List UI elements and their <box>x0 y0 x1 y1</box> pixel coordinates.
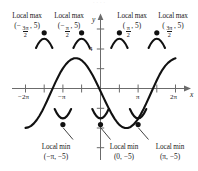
coord-rest: , 5) <box>174 21 184 30</box>
y-tick-label-4: 4 <box>89 45 93 53</box>
minus-sign: − <box>60 21 64 30</box>
local-min-marker-1 <box>60 122 65 127</box>
local-max-caption-2: Local max <box>44 13 94 21</box>
local-min-coord-3: (π, −5) <box>146 153 194 161</box>
local-max-coord-4: (3π2, 5) <box>148 22 198 39</box>
local-min-marker-3 <box>136 122 141 127</box>
local-min-caption-3: Local min <box>146 144 194 152</box>
local-min-coord-1: (−π, −5) <box>26 153 86 161</box>
fraction-denominator: 2 <box>126 31 131 38</box>
local-min-label-2: Local min (0, −5) <box>101 144 147 160</box>
fraction-denominator: 2 <box>23 31 28 38</box>
leader-line-min-1 <box>63 128 73 140</box>
x-tick-label-neg-pi: −π <box>58 93 65 101</box>
coord-rest: , 5) <box>70 21 80 30</box>
x-axis <box>12 86 191 92</box>
local-min-coord-2: (0, −5) <box>101 153 147 161</box>
local-max-label-2: Local max (−π2, 5) <box>44 13 94 38</box>
leader-lines <box>63 128 149 140</box>
x-axis-name: x <box>190 90 193 99</box>
local-min-label-3: Local min (π, −5) <box>146 144 194 160</box>
local-min-markers <box>60 122 140 127</box>
local-max-coord-2: (−π2, 5) <box>44 22 94 39</box>
local-max-label-4: Local max (3π2, 5) <box>148 13 198 38</box>
local-min-label-1: Local min (−π, −5) <box>26 144 86 160</box>
x-tick-label-pi: π <box>136 93 140 101</box>
local-min-marker-2 <box>98 122 103 127</box>
minus-sign: − <box>17 21 21 30</box>
coord-rest: , 5) <box>30 21 40 30</box>
leader-line-min-2 <box>101 128 111 140</box>
local-min-caption-2: Local min <box>101 144 147 152</box>
coord-rest: , 5) <box>131 21 141 30</box>
fraction-denominator: 2 <box>65 31 70 38</box>
fraction: 3π2 <box>21 25 29 38</box>
x-tick-label-2pi: 2π <box>170 93 177 101</box>
x-tick-label-neg-2pi: −2π <box>18 93 29 101</box>
fraction: 3π2 <box>165 25 173 38</box>
leader-line-min-3 <box>138 128 148 140</box>
local-max-caption-4: Local max <box>148 13 198 21</box>
math-graph-figure: · · · · <box>0 0 198 171</box>
local-min-caption-1: Local min <box>26 144 86 152</box>
fraction-denominator: 2 <box>167 31 172 38</box>
